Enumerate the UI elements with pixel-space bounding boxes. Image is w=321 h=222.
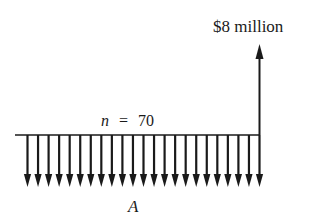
period-value: 70 bbox=[138, 112, 154, 129]
annuity-arrow bbox=[56, 135, 63, 187]
annuity-label: A bbox=[127, 197, 139, 216]
cash-flow-diagram: $8 million n = 70 A bbox=[0, 0, 321, 222]
period-label: n = 70 bbox=[101, 112, 154, 129]
arrow-down-icon bbox=[140, 174, 147, 187]
period-equals: = bbox=[119, 112, 128, 129]
arrow-down-icon bbox=[193, 174, 200, 187]
arrow-down-icon bbox=[45, 174, 52, 187]
annuity-arrow bbox=[108, 135, 115, 187]
annuity-arrow bbox=[224, 135, 231, 187]
annuity-arrow bbox=[66, 135, 73, 187]
arrow-down-icon bbox=[214, 174, 221, 187]
future-value-label: $8 million bbox=[213, 17, 284, 36]
annuity-arrow bbox=[34, 135, 41, 187]
arrow-up-icon bbox=[256, 44, 264, 59]
annuity-arrow bbox=[193, 135, 200, 187]
annuity-arrow bbox=[98, 135, 105, 187]
annuity-arrow bbox=[77, 135, 84, 187]
arrow-down-icon bbox=[235, 174, 242, 187]
annuity-arrow bbox=[235, 135, 242, 187]
arrow-down-icon bbox=[224, 174, 231, 187]
annuity-arrow bbox=[129, 135, 136, 187]
annuity-arrow bbox=[172, 135, 179, 187]
arrow-down-icon bbox=[24, 174, 31, 187]
annuity-arrow bbox=[182, 135, 189, 187]
arrow-down-icon bbox=[34, 174, 41, 187]
annuity-arrow bbox=[45, 135, 52, 187]
arrow-down-icon bbox=[66, 174, 73, 187]
arrow-down-icon bbox=[77, 174, 84, 187]
arrow-down-icon bbox=[245, 174, 252, 187]
annuity-arrow bbox=[150, 135, 157, 187]
annuity-arrow bbox=[24, 135, 31, 187]
arrow-down-icon bbox=[98, 174, 105, 187]
annuity-arrows bbox=[24, 135, 263, 187]
arrow-down-icon bbox=[150, 174, 157, 187]
arrow-down-icon bbox=[182, 174, 189, 187]
arrow-down-icon bbox=[256, 174, 263, 187]
period-variable: n bbox=[101, 112, 109, 129]
arrow-down-icon bbox=[119, 174, 126, 187]
annuity-arrow bbox=[161, 135, 168, 187]
annuity-arrow bbox=[119, 135, 126, 187]
arrow-down-icon bbox=[129, 174, 136, 187]
annuity-arrow bbox=[87, 135, 94, 187]
arrow-down-icon bbox=[161, 174, 168, 187]
arrow-down-icon bbox=[203, 174, 210, 187]
annuity-arrow bbox=[140, 135, 147, 187]
arrow-down-icon bbox=[87, 174, 94, 187]
annuity-arrow bbox=[245, 135, 252, 187]
future-value-arrow bbox=[256, 44, 264, 135]
annuity-arrow bbox=[214, 135, 221, 187]
arrow-down-icon bbox=[56, 174, 63, 187]
annuity-arrow bbox=[203, 135, 210, 187]
arrow-down-icon bbox=[172, 174, 179, 187]
annuity-arrow bbox=[256, 135, 263, 187]
arrow-down-icon bbox=[108, 174, 115, 187]
